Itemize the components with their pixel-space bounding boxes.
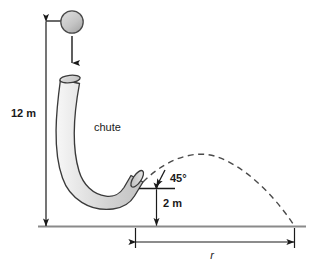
range-label-r: r <box>210 249 215 261</box>
exit-height-label-2m: 2 m <box>163 197 182 209</box>
exit-height-dimension-2m: 2 m <box>157 190 183 226</box>
range-dimension-r: r <box>136 228 295 261</box>
chute-body <box>56 80 143 210</box>
physics-diagram: 12 m chute 45° <box>0 0 316 263</box>
diagram-canvas: 12 m chute 45° <box>0 0 316 263</box>
ball <box>61 11 83 33</box>
height-dimension-12m: 12 m <box>11 21 61 226</box>
height-label-12m: 12 m <box>11 107 36 119</box>
chute-label: chute <box>94 121 121 133</box>
trajectory-path <box>143 154 295 226</box>
launch-angle-label: 45° <box>170 172 187 184</box>
angle-pointer-arrow <box>157 170 166 187</box>
chute-tube <box>56 74 146 209</box>
